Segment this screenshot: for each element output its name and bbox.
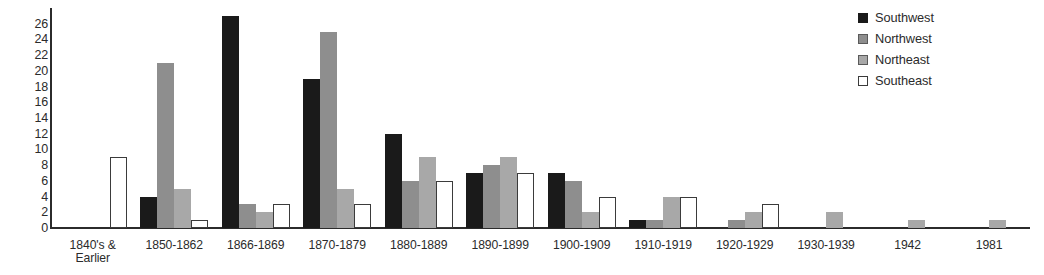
bar-northeast (908, 220, 925, 228)
bar-southwest (385, 134, 402, 228)
x-tick-label: 1920-1929 (704, 239, 785, 265)
bar-southwest (140, 197, 157, 228)
x-axis: 1840's & Earlier1850-18621866-18691870-1… (52, 239, 1030, 265)
bar-northwest (565, 181, 582, 228)
bar-group (133, 8, 214, 228)
legend-label: Southeast (875, 75, 932, 88)
bar-northeast (337, 189, 354, 228)
bar-southeast (110, 157, 127, 228)
bar-group (704, 8, 785, 228)
bar-northwest (239, 204, 256, 228)
y-tick-label: 18 (34, 80, 48, 93)
y-tick-label: 0 (41, 222, 48, 235)
y-tick-label: 12 (34, 127, 48, 140)
x-tick-label: 1930-1939 (785, 239, 866, 265)
y-tick-label: 22 (34, 49, 48, 62)
bar-northwest (402, 181, 419, 228)
chart-legend: SouthwestNorthwestNortheastSoutheast (858, 8, 1038, 92)
bar-southwest (222, 16, 239, 228)
bar-northwest (157, 63, 174, 228)
bar-southeast (191, 220, 208, 228)
bar-northeast (256, 212, 273, 228)
x-tick-label: 1890-1899 (459, 239, 540, 265)
bar-southeast (680, 197, 697, 228)
legend-swatch-northeast-icon (858, 55, 868, 65)
y-tick-label: 6 (41, 175, 48, 188)
x-tick-label: 1942 (867, 239, 948, 265)
bar-northeast (174, 189, 191, 228)
bar-northwest (483, 165, 500, 228)
bar-group (541, 8, 622, 228)
bar-southwest (466, 173, 483, 228)
legend-item-southeast[interactable]: Southeast (858, 71, 1038, 91)
bar-southeast (599, 197, 616, 228)
y-tick-label: 4 (41, 190, 48, 203)
legend-item-northeast[interactable]: Northeast (858, 50, 1038, 70)
bar-group (785, 8, 866, 228)
y-tick-label: 8 (41, 159, 48, 172)
bar-group (52, 8, 133, 228)
y-tick-label: 20 (34, 65, 48, 78)
bar-southwest (303, 79, 320, 228)
y-tick-label: 16 (34, 96, 48, 109)
legend-swatch-southeast-icon (858, 76, 868, 86)
bar-northwest (728, 220, 745, 228)
y-tick-label: 10 (34, 143, 48, 156)
legend-item-southwest[interactable]: Southwest (858, 8, 1038, 28)
y-tick-label: 14 (34, 112, 48, 125)
legend-swatch-southwest-icon (858, 13, 868, 23)
bar-northeast (582, 212, 599, 228)
y-axis: 02468101214161820222426 (20, 8, 48, 228)
bar-southeast (354, 204, 371, 228)
bar-group (622, 8, 703, 228)
bar-group (459, 8, 540, 228)
x-tick-label: 1880-1889 (378, 239, 459, 265)
x-tick-label: 1900-1909 (541, 239, 622, 265)
bar-southeast (517, 173, 534, 228)
x-tick-label: 1981 (948, 239, 1029, 265)
bar-northeast (745, 212, 762, 228)
bar-southeast (436, 181, 453, 228)
bar-southeast (273, 204, 290, 228)
bar-northeast (663, 197, 680, 228)
y-tick-label: 2 (41, 206, 48, 219)
bar-northeast (826, 212, 843, 228)
bar-northwest (320, 32, 337, 228)
bar-group (378, 8, 459, 228)
bar-chart: 02468101214161820222426 1840's & Earlier… (0, 0, 1044, 275)
bar-southwest (548, 173, 565, 228)
bar-southeast (762, 204, 779, 228)
x-tick-label: 1866-1869 (215, 239, 296, 265)
legend-label: Northwest (875, 33, 932, 46)
x-tick-label: 1850-1862 (133, 239, 214, 265)
bar-northeast (500, 157, 517, 228)
legend-label: Northeast (875, 54, 930, 67)
y-tick-label: 24 (34, 33, 48, 46)
x-tick-label: 1870-1879 (296, 239, 377, 265)
y-tick-label: 26 (34, 17, 48, 30)
bar-northeast (419, 157, 436, 228)
legend-item-northwest[interactable]: Northwest (858, 29, 1038, 49)
bar-northeast (989, 220, 1006, 228)
bar-southwest (629, 220, 646, 228)
x-tick-label: 1910-1919 (622, 239, 703, 265)
bar-group (296, 8, 377, 228)
legend-label: Southwest (875, 12, 934, 25)
bar-northwest (646, 220, 663, 228)
x-tick-label: 1840's & Earlier (52, 239, 133, 265)
bar-group (215, 8, 296, 228)
legend-swatch-northwest-icon (858, 34, 868, 44)
